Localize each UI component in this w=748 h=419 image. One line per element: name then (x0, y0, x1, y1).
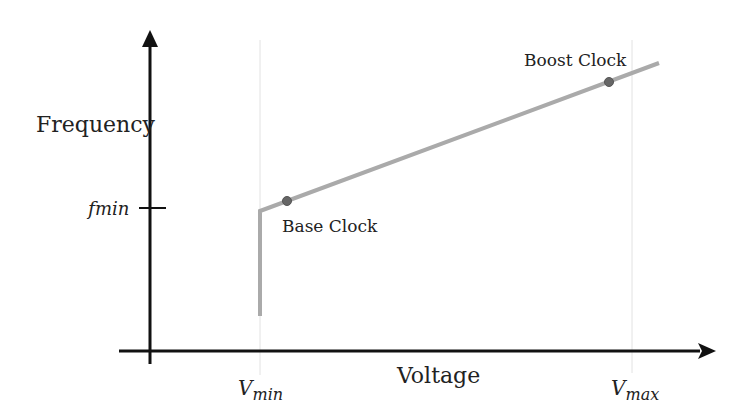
fmin-label: fmin (86, 197, 129, 219)
boost-clock-point (605, 78, 614, 87)
base-clock-point (283, 197, 292, 206)
vmin-sub: min (252, 385, 283, 404)
vf-diagram: Frequency Voltage Base Clock Boost Clock… (0, 0, 748, 419)
vmin-label: Vmin (238, 376, 283, 404)
fmin-sub: min (95, 198, 129, 219)
vf-curve (260, 63, 659, 316)
vmax-label: Vmax (611, 376, 659, 404)
vmax-sub: max (625, 385, 659, 404)
y-axis-label: Frequency (36, 112, 156, 137)
y-axis-arrow-icon (142, 30, 158, 47)
boost-clock-label: Boost Clock (524, 50, 627, 70)
x-axis-arrow-icon (698, 343, 716, 359)
x-axis-label: Voltage (396, 363, 480, 388)
base-clock-label: Base Clock (282, 216, 378, 236)
